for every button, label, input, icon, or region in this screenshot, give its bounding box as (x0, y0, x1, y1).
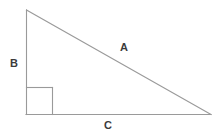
side-label-b: B (8, 58, 20, 69)
right-triangle-diagram: A B C (0, 0, 217, 137)
side-label-a: A (118, 42, 130, 53)
hypotenuse-line (27, 10, 212, 115)
triangle-figure-svg (0, 0, 217, 137)
side-label-c: C (102, 120, 114, 131)
